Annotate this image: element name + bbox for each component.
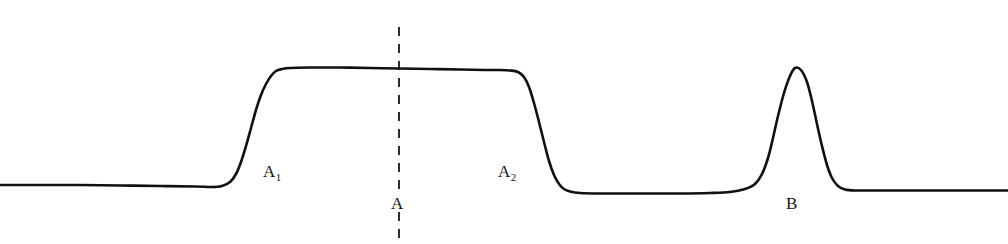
label-A1-text: A xyxy=(263,162,275,181)
label-A2-text: A xyxy=(498,162,510,181)
figure-canvas: A1 A2 A B xyxy=(0,0,1008,244)
label-plateau-center: A xyxy=(391,195,403,212)
plot-background xyxy=(0,0,1008,244)
label-plateau-left-shoulder: A1 xyxy=(263,163,281,180)
label-gaussian-peak: B xyxy=(786,195,797,212)
label-A1-subscript: 1 xyxy=(276,171,282,183)
signal-trace-plot xyxy=(0,0,1008,244)
label-A2-subscript: 2 xyxy=(511,171,517,183)
label-plateau-right-shoulder: A2 xyxy=(498,163,516,180)
